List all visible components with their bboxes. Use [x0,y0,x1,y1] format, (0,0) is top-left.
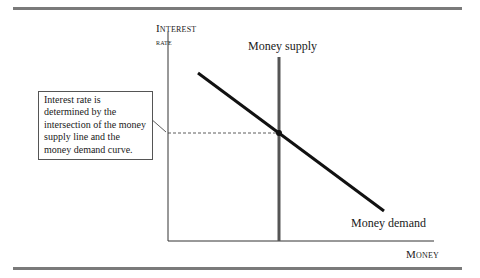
x-axis-label: Money [406,248,439,260]
y-axis-label-line1: Interest [156,21,196,35]
y-axis-label-line2: rate [156,35,196,49]
y-axis-label: Interest rate [156,21,196,49]
equilibrium-point [276,130,282,136]
money-demand-label: Money demand [351,216,426,231]
money-demand-curve [198,73,384,211]
money-supply-label: Money supply [248,39,317,54]
annotation-box: Interest rate is determined by the inter… [38,91,153,160]
